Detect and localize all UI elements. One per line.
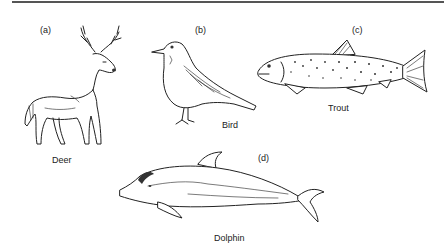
panel-d-name: Dolphin: [214, 233, 245, 243]
panel-c-name: Trout: [328, 103, 349, 113]
panel-b-name: Bird: [222, 120, 238, 130]
panel-c-letter: (c): [352, 25, 363, 35]
trout-illustration: [255, 36, 435, 106]
top-rule: [12, 1, 444, 3]
dolphin-illustration: [118, 150, 328, 225]
deer-illustration: [15, 20, 125, 140]
panel-a-name: Deer: [52, 155, 72, 165]
panel-b-letter: (b): [195, 25, 206, 35]
bird-illustration: [150, 38, 260, 128]
